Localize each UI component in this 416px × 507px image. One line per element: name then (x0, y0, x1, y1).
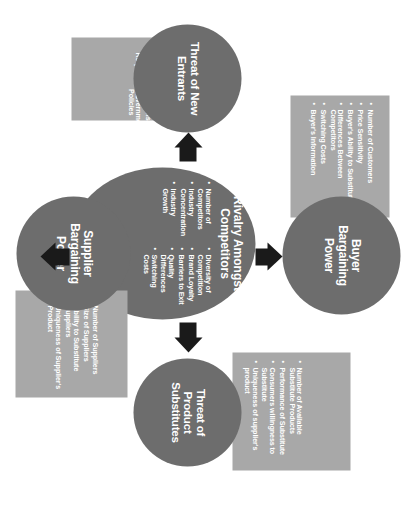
buyer-bargaining-power-node: Buyer Bargaining Power (282, 196, 400, 314)
node-title-line: Threat of New (187, 41, 200, 114)
list-item: Uniqueness of Supplier's Product (46, 298, 62, 389)
rivalry-factors-list-right: Diversity of Competition Brand Loyalty B… (139, 247, 211, 305)
substitutes-factors-panel: Number of Available Substitute Products … (232, 352, 350, 470)
arrow-shaft (54, 248, 69, 265)
list-item: Buyer's Ability to Substitutes (345, 102, 353, 210)
list-item: Size of Suppliers (81, 298, 89, 389)
node-title-line: Product (181, 382, 194, 442)
five-forces-stage: Number of Customers Price Sensitivity Bu… (0, 0, 416, 507)
node-title-line: Buyer (348, 225, 361, 286)
node-title-line: Entrants (174, 41, 187, 114)
node-title: Buyer Bargaining Power (321, 225, 361, 286)
list-item: Price Sensitivity (355, 102, 363, 210)
buyer-factors-list: Number of Customers Price Sensitivity Bu… (306, 102, 372, 210)
substitutes-factors-list: Number of Available Substitute Products … (240, 360, 302, 462)
list-item: Buyer's Information (308, 102, 316, 210)
node-title: Threat of New Entrants (174, 41, 200, 114)
arrow-head (174, 132, 202, 147)
list-item: Number of Competitors (196, 181, 212, 239)
list-item: Number of Customers (365, 102, 373, 210)
arrow-head (174, 337, 202, 352)
node-title-line: Supplier (80, 223, 93, 284)
threat-of-new-entrants-node: Threat of New Entrants (133, 24, 241, 132)
list-item: Switching Costs (141, 247, 157, 305)
list-item: Brand Loyalty (186, 247, 194, 305)
list-item: Diversity of Competition (196, 247, 212, 305)
node-title-line: Substitutes (168, 382, 181, 442)
list-item: Performance of Substitute (277, 360, 285, 462)
diagram-canvas: Number of Customers Price Sensitivity Bu… (0, 0, 416, 507)
node-title-line: Threat of (193, 382, 206, 442)
list-item: Quality Differences (159, 247, 175, 305)
list-item: Number of Suppliers (91, 298, 99, 389)
list-item: Industry Growth (161, 181, 177, 239)
node-title-line: Competitors (216, 196, 229, 291)
node-title: Threat of Product Substitutes (168, 382, 207, 442)
node-title: Rivalry Amongst Competitors (216, 196, 243, 291)
arrow-head (267, 242, 282, 270)
arrow-head (40, 242, 55, 270)
list-item: Switching Costs (318, 102, 326, 210)
list-item: Industry Concentration (178, 181, 194, 239)
node-title-line: Bargaining (334, 225, 347, 286)
node-title-line: Rivalry Amongst (230, 196, 243, 291)
list-item: Uniqueness of supplier's product (242, 360, 258, 462)
rivalry-factor-columns: Number of Competitors Industry Concentra… (139, 177, 211, 309)
threat-of-product-substitutes-node: Threat of Product Substitutes (133, 358, 241, 466)
supplier-factors-list: Number of Suppliers Size of Suppliers Ab… (44, 298, 99, 389)
rivalry-factors-list-left: Number of Competitors Industry Concentra… (139, 181, 211, 239)
node-title-line: Power (321, 225, 334, 286)
supplier-bargaining-power-node: Supplier Bargaining Power (16, 196, 130, 310)
list-item: Consumers willingness to Substitute (260, 360, 276, 462)
list-item: Barriers to Exit (176, 247, 184, 305)
list-item: Number of Available Substitute Products (287, 360, 303, 462)
arrow-shaft (179, 322, 196, 338)
list-item: Ability to Substitute Suppliers (63, 298, 79, 389)
list-item: Differences Between Competitors (328, 102, 344, 210)
